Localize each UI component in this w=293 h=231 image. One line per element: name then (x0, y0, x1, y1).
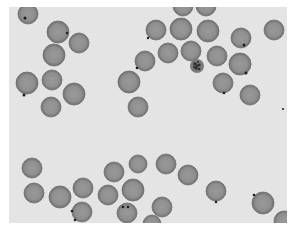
red-blood-cell (152, 197, 172, 217)
red-blood-cell (158, 43, 178, 63)
inclusion-dot (127, 206, 130, 209)
red-blood-cell (63, 83, 85, 105)
red-blood-cell (49, 186, 71, 208)
inclusion-dot (122, 206, 125, 209)
inclusion-dot (136, 67, 139, 70)
inclusion-dot (215, 201, 218, 204)
red-blood-cell (43, 44, 65, 66)
red-blood-cell (47, 21, 69, 43)
red-blood-cell (104, 162, 124, 182)
inclusion-dot (282, 108, 284, 110)
red-blood-cell (22, 158, 42, 178)
inclusion-dot (74, 219, 77, 222)
red-blood-cell (16, 72, 38, 94)
infected-cell-parasite (190, 59, 204, 73)
inclusion-dot (243, 44, 246, 47)
red-blood-cell (128, 97, 148, 117)
red-blood-cell (117, 203, 137, 223)
red-blood-cell (252, 192, 274, 214)
inclusion-dot (66, 32, 68, 34)
red-blood-cell (118, 71, 140, 93)
parasite-chromatin (193, 66, 195, 68)
red-blood-cell (197, 20, 219, 42)
red-blood-cell (24, 183, 44, 203)
red-blood-cell (240, 85, 260, 105)
red-blood-cell (181, 41, 201, 61)
inclusion-dot (245, 72, 248, 75)
inclusion-dot (24, 17, 27, 20)
red-blood-cell (129, 155, 147, 173)
red-blood-cell (206, 181, 226, 201)
micrograph-frame (0, 0, 293, 231)
red-blood-cell (213, 73, 233, 93)
red-blood-cell (18, 4, 38, 24)
parasite-chromatin (197, 61, 199, 63)
red-blood-cell (207, 46, 227, 66)
inclusion-dot (147, 37, 149, 39)
red-blood-cell (264, 20, 284, 40)
red-blood-cell (69, 33, 89, 53)
blood-smear-image (0, 0, 293, 231)
inclusion-dot (253, 194, 256, 197)
red-blood-cell (231, 28, 251, 48)
red-blood-cell (229, 53, 251, 75)
parasite-chromatin (198, 68, 201, 71)
red-blood-cell (41, 97, 61, 117)
parasite-chromatin (196, 65, 198, 67)
inclusion-dot (223, 92, 226, 95)
red-blood-cell (73, 178, 93, 198)
inclusion-dot (71, 210, 74, 213)
red-blood-cell (122, 179, 144, 201)
red-blood-cell (156, 154, 176, 174)
red-blood-cell (146, 20, 166, 40)
red-blood-cell (178, 165, 198, 185)
red-blood-cell (42, 70, 62, 90)
red-blood-cell (98, 185, 118, 205)
inclusion-dot (23, 94, 26, 97)
red-blood-cell (170, 18, 192, 40)
